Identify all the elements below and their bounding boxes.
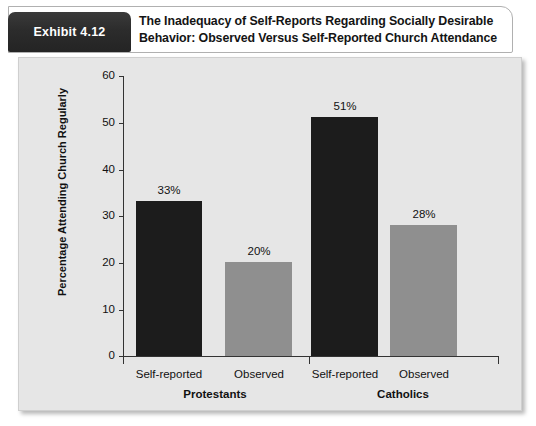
x-label-catholics-observed: Observed xyxy=(378,368,470,380)
exhibit-title: The Inadequacy of Self-Reports Regarding… xyxy=(139,13,507,47)
bar-protestants-self-reported xyxy=(136,201,202,356)
y-tick-label-10: 10 xyxy=(87,303,115,315)
y-tick-label-60: 60 xyxy=(87,69,115,81)
x-label-protestants-self-reported: Self-reported xyxy=(123,368,215,380)
y-tick-label-20: 20 xyxy=(87,256,115,268)
bar-value-catholics-observed: 28% xyxy=(389,208,459,220)
y-tick-label-30: 30 xyxy=(87,209,115,221)
bar-value-protestants-self-reported: 33% xyxy=(134,184,204,196)
y-tick-label-0: 0 xyxy=(87,349,115,361)
bar-value-catholics-self-reported: 51% xyxy=(310,100,380,112)
x-group-label-catholics: Catholics xyxy=(313,388,493,400)
bar-catholics-self-reported xyxy=(311,117,378,356)
chart-card: Percentage Attending Church Regularly 60… xyxy=(18,57,522,411)
x-label-protestants-observed: Observed xyxy=(213,368,305,380)
bar-protestants-observed xyxy=(225,262,292,356)
x-group-label-protestants: Protestants xyxy=(125,388,305,400)
y-tick-label-40: 40 xyxy=(87,163,115,175)
exhibit-title-line-2: Behavior: Observed Versus Self-Reported … xyxy=(139,30,507,47)
exhibit-number-label: Exhibit 4.12 xyxy=(34,25,106,39)
exhibit-title-line-1: The Inadequacy of Self-Reports Regarding… xyxy=(139,13,507,30)
y-axis-title: Percentage Attending Church Regularly xyxy=(56,67,68,317)
exhibit-number-badge: Exhibit 4.12 xyxy=(8,12,131,52)
bar-chart-plot: Percentage Attending Church Regularly 60… xyxy=(19,58,523,412)
bar-value-protestants-observed: 20% xyxy=(224,245,294,257)
x-axis-group-divider-tick xyxy=(498,356,499,364)
x-axis-line xyxy=(123,356,498,357)
y-axis-line xyxy=(123,76,124,357)
x-axis-group-divider-tick xyxy=(123,356,124,364)
y-tick-label-50: 50 xyxy=(87,116,115,128)
x-axis-group-divider-tick xyxy=(309,356,310,364)
bar-catholics-observed xyxy=(390,225,457,356)
exhibit-header: The Inadequacy of Self-Reports Regarding… xyxy=(8,6,513,54)
